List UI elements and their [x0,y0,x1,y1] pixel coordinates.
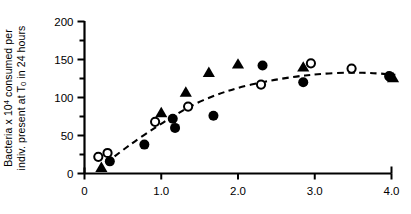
y-tick-label: 50 [40,130,74,142]
marker-open-circle [184,103,192,111]
y-axis-label-container: Bacteria x 104 consumed per indiv. prese… [0,0,44,214]
fit-curve [106,73,395,163]
x-tick-label: 3.0 [307,185,323,197]
y-tick-label: 100 [40,92,74,104]
x-tick-label: 0 [81,185,87,197]
y-axis-label-line-2: indiv. present at T0 in 24 hours [15,0,30,196]
marker-filled-circle [208,111,218,121]
marker-open-circle [257,80,265,88]
marker-filled-circle [170,123,180,133]
marker-filled-circle [139,140,149,150]
y-axis-label-line-1: Bacteria x 104 consumed per [2,29,14,167]
y-axis-label-exponent: 4 [2,100,11,104]
fit-curve-path [106,73,395,163]
marker-open-circle [151,118,159,126]
x-tick-label: 4.0 [384,185,400,197]
axes [78,21,392,180]
y-axis-label: Bacteria x 104 consumed per indiv. prese… [0,0,31,196]
marker-filled-circle [168,114,178,124]
y-axis-label-subscript: 0 [20,82,29,86]
marker-open-circle [307,59,315,67]
marker-open-circle [103,149,111,157]
y-tick-label: 150 [40,54,74,66]
marker-open-circle [347,65,355,73]
plot-area [0,0,411,214]
y-tick-label: 200 [40,16,74,28]
x-tick-label: 2.0 [230,185,246,197]
chart-figure: Bacteria x 104 consumed per indiv. prese… [0,0,411,214]
marker-filled-triangle [180,86,192,96]
marker-filled-triangle [203,67,215,77]
data-markers [94,58,399,172]
marker-filled-circle [258,61,268,71]
marker-filled-triangle [155,107,167,117]
x-tick-label: 1.0 [153,185,169,197]
marker-filled-circle [105,156,115,166]
y-tick-label: 0 [40,168,74,180]
marker-filled-triangle [232,58,244,68]
marker-filled-circle [298,77,308,87]
marker-open-circle [94,153,102,161]
